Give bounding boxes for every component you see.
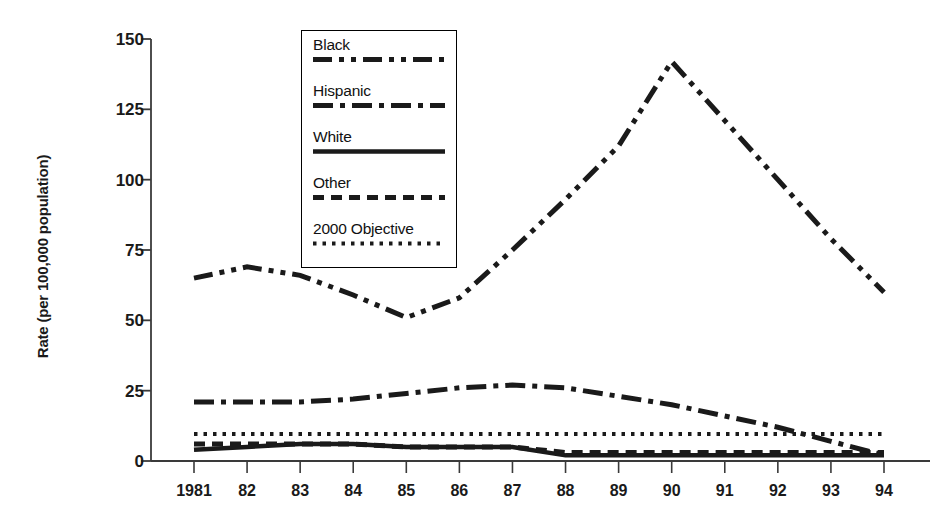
legend-label: 2000 Objective: [313, 221, 447, 237]
legend-label: Other: [313, 175, 447, 191]
legend-entry-2000-objective: 2000 Objective: [313, 221, 447, 246]
x-axis-tick-label: 88: [536, 483, 596, 499]
legend-label: Black: [313, 37, 447, 53]
x-axis-tick-label: 84: [323, 483, 383, 499]
x-axis-tick-label: 1981: [164, 483, 224, 499]
legend-swatch-long-dash-dot-dot: [313, 56, 445, 62]
x-axis-tick-label: 86: [429, 483, 489, 499]
x-axis-tick-label: 90: [642, 483, 702, 499]
y-axis-tick-label: 150: [98, 31, 144, 48]
legend-swatch-solid: [313, 148, 445, 154]
y-axis-tick-label: 0: [98, 453, 144, 470]
series-line-black: [194, 62, 884, 318]
y-axis-tick-label: 25: [98, 383, 144, 400]
x-axis-tick-label: 89: [589, 483, 649, 499]
axis-lines: [141, 39, 930, 473]
y-axis-tick-label: 125: [98, 101, 144, 118]
x-axis-tick-label: 82: [217, 483, 277, 499]
y-axis-tick-label: 50: [98, 312, 144, 329]
legend-label: Hispanic: [313, 83, 447, 99]
y-axis-tick-label: 75: [98, 242, 144, 259]
legend-entry-white: White: [313, 129, 447, 154]
x-axis-tick-label: 87: [482, 483, 542, 499]
x-axis-tick-label: 93: [801, 483, 861, 499]
chart-legend: BlackHispanicWhiteOther2000 Objective: [301, 30, 457, 268]
legend-swatch-dotted: [313, 240, 445, 246]
legend-entry-hispanic: Hispanic: [313, 83, 447, 108]
x-axis-tick-label: 85: [376, 483, 436, 499]
series-lines: [194, 62, 884, 456]
plot-area: [0, 0, 952, 527]
legend-label: White: [313, 129, 447, 145]
x-axis-tick-label: 83: [270, 483, 330, 499]
legend-entry-other: Other: [313, 175, 447, 200]
chart-figure: Rate (per 100,000 population) 0255075100…: [0, 0, 952, 527]
y-axis-tick-label: 100: [98, 172, 144, 189]
legend-swatch-dashed: [313, 194, 445, 200]
legend-entry-black: Black: [313, 37, 447, 62]
x-axis-tick-label: 91: [695, 483, 755, 499]
legend-swatch-long-dash-dot: [313, 102, 445, 108]
y-axis-title: Rate (per 100,000 population): [34, 97, 51, 417]
x-axis-tick-label: 92: [748, 483, 808, 499]
x-axis-tick-label: 94: [854, 483, 914, 499]
